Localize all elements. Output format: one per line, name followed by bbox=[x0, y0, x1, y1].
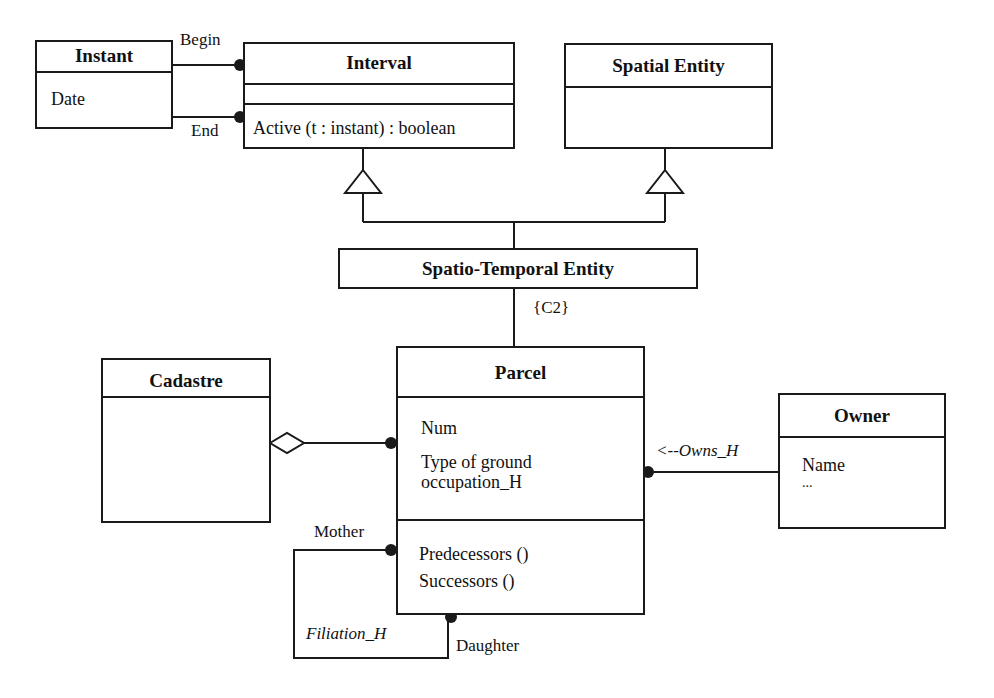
divider bbox=[566, 86, 771, 88]
association-filiation: Filiation_H bbox=[306, 624, 386, 644]
class-interval-name: Interval bbox=[245, 52, 513, 74]
role-mother: Mother bbox=[314, 522, 364, 542]
divider bbox=[37, 71, 171, 73]
attribute-name: Name bbox=[802, 455, 845, 476]
constraint-c2: {C2} bbox=[533, 298, 569, 318]
class-instant[interactable]: Instant Date bbox=[35, 40, 173, 129]
attribute-date: Date bbox=[51, 89, 85, 110]
class-owner-name: Owner bbox=[780, 405, 944, 427]
operation-active: Active (t : instant) : boolean bbox=[253, 118, 455, 139]
class-spatio-temporal-entity-name: Spatio-Temporal Entity bbox=[340, 258, 696, 280]
role-end: End bbox=[191, 121, 218, 141]
operation-predecessors: Predecessors () bbox=[419, 544, 528, 565]
role-begin: Begin bbox=[180, 30, 221, 50]
class-spatio-temporal-entity[interactable]: Spatio-Temporal Entity bbox=[338, 248, 698, 289]
class-parcel[interactable]: Parcel Num Type of ground occupation_H P… bbox=[396, 346, 645, 615]
class-cadastre-name: Cadastre bbox=[103, 370, 269, 392]
class-owner[interactable]: Owner Name ... bbox=[778, 393, 946, 529]
class-interval[interactable]: Interval Active (t : instant) : boolean bbox=[243, 42, 515, 149]
association-owns: <--Owns_H bbox=[656, 441, 738, 461]
class-spatial-entity[interactable]: Spatial Entity bbox=[564, 43, 773, 149]
divider bbox=[245, 103, 513, 105]
divider bbox=[780, 436, 944, 438]
divider bbox=[103, 396, 269, 398]
class-cadastre[interactable]: Cadastre bbox=[101, 358, 271, 523]
attribute-occupation: occupation_H bbox=[421, 472, 522, 493]
operation-successors: Successors () bbox=[419, 571, 514, 592]
attribute-num: Num bbox=[421, 418, 457, 439]
role-daughter: Daughter bbox=[456, 636, 519, 656]
divider bbox=[398, 519, 643, 521]
divider bbox=[398, 396, 643, 398]
divider bbox=[245, 83, 513, 85]
class-instant-name: Instant bbox=[37, 45, 171, 67]
class-parcel-name: Parcel bbox=[398, 362, 643, 384]
attribute-type-of-ground: Type of ground bbox=[421, 452, 532, 473]
class-spatial-entity-name: Spatial Entity bbox=[566, 55, 771, 77]
attribute-more: ... bbox=[802, 475, 813, 491]
